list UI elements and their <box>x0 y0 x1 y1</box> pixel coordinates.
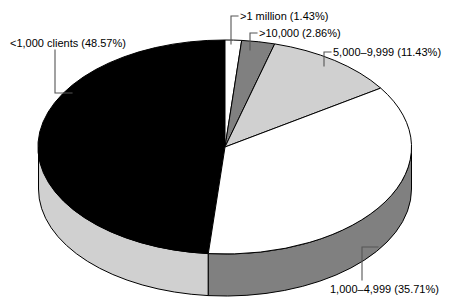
pie-label-lt-1000: <1,000 clients (48.57%) <box>10 37 126 49</box>
pie-label-gt-1million: >1 million (1.43%) <box>240 10 328 22</box>
pie-label-1000-4999: 1,000–4,999 (35.71%) <box>330 283 439 295</box>
pie-label-5000-9999: 5,000–9,999 (11.43%) <box>333 46 441 58</box>
pie-chart-figure: <1,000 clients (48.57%) >1 million (1.43… <box>0 0 458 308</box>
leader-line-lt-1000 <box>55 50 72 93</box>
pie-top-face <box>38 40 412 254</box>
pie-label-gt-10000: >10,000 (2.86%) <box>259 27 341 39</box>
